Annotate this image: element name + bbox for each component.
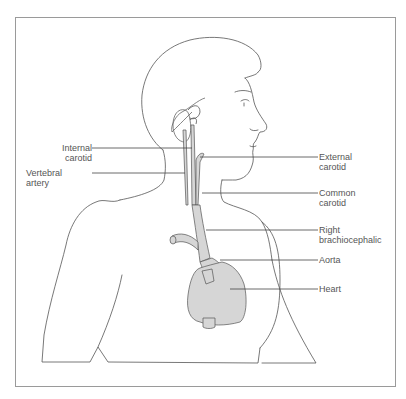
heart-shape	[188, 262, 247, 325]
left-inner-arm	[98, 275, 122, 347]
label-line: Vertebral	[26, 168, 92, 178]
label-line: Common	[319, 188, 356, 198]
vertebral-artery-vessel	[183, 130, 188, 205]
ear	[173, 110, 191, 142]
head-outline	[142, 37, 261, 150]
right-arm	[262, 260, 316, 363]
label-right-brachiocephalic: Right brachiocephalic	[319, 225, 382, 245]
label-aorta: Aorta	[319, 255, 341, 265]
label-line: Aorta	[319, 255, 341, 265]
label-line: carotid	[48, 153, 92, 163]
external-carotid-vessel	[196, 153, 204, 205]
label-line: Heart	[319, 284, 341, 294]
label-line: artery	[26, 178, 92, 188]
label-line: carotid	[319, 198, 356, 208]
label-line: carotid	[319, 162, 352, 172]
label-line: Right	[319, 225, 382, 235]
label-external-carotid: External carotid	[319, 152, 352, 172]
label-line: Internal	[48, 143, 92, 153]
label-internal-carotid: Internal carotid	[48, 143, 92, 163]
neck-front	[221, 180, 272, 260]
label-heart: Heart	[319, 284, 341, 294]
label-vertebral-artery: Vertebral artery	[26, 168, 92, 188]
common-carotid-vessel	[192, 205, 210, 262]
internal-carotid-vessel	[191, 125, 196, 205]
label-line: External	[319, 152, 352, 162]
right-shoulder	[260, 222, 280, 348]
label-common-carotid: Common carotid	[319, 188, 356, 208]
face-profile	[222, 78, 267, 180]
label-line: brachiocephalic	[319, 235, 382, 245]
neck-back	[120, 150, 165, 200]
